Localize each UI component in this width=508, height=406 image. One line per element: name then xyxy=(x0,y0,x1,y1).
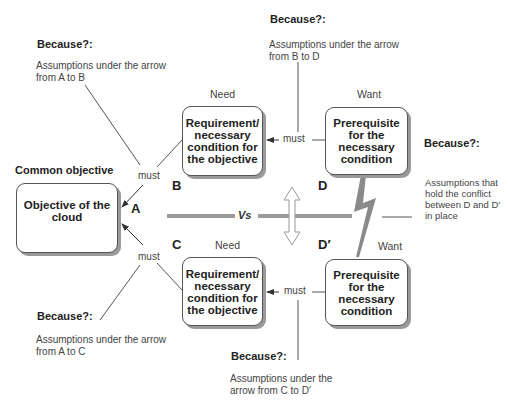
assumption-ac-text: Assumptions under the arrow from A to C xyxy=(36,334,166,358)
letter-d-prime: D′ xyxy=(318,237,331,252)
assumption-dd-line4: in place xyxy=(425,210,500,221)
must-label-ab: must xyxy=(137,170,161,181)
letter-d: D xyxy=(318,178,327,193)
assumption-ab-line1: Assumptions under the arrow xyxy=(36,60,166,72)
assumption-dd-title: Because?: xyxy=(424,137,480,149)
node-d-prime-box[interactable]: Prerequisite for the necessary condition xyxy=(325,259,408,326)
header-want-d-prime: Want xyxy=(378,240,402,252)
must-label-bd: must xyxy=(282,133,306,144)
assumption-dd-line2: hold the conflict xyxy=(425,188,500,199)
assumption-cd-title: Because?: xyxy=(231,350,287,362)
assumption-bd-line2: from B to D xyxy=(269,51,399,63)
node-c-box[interactable]: Requirement/ necessary condition for the… xyxy=(182,257,263,326)
letter-a: A xyxy=(131,201,140,216)
assumption-ac-line2: from A to C xyxy=(36,346,166,358)
vs-label: Vs xyxy=(238,209,251,221)
assumption-ab-line2: from A to B xyxy=(36,72,166,84)
common-objective-label: Common objective xyxy=(15,164,113,176)
header-want-d: Want xyxy=(357,88,381,100)
assumption-ab-title: Because?: xyxy=(37,38,93,50)
assumption-cd-line1: Assumptions under the xyxy=(230,373,332,385)
assumption-dd-text: Assumptions that hold the conflict betwe… xyxy=(425,177,500,221)
header-need-c: Need xyxy=(215,239,240,251)
letter-b: B xyxy=(172,178,181,193)
node-a-box[interactable]: Objective of the cloud xyxy=(16,183,118,253)
assumption-bd-text: Assumptions under the arrow from B to D xyxy=(269,39,399,63)
node-d-prime-text: Prerequisite for the necessary condition xyxy=(330,269,403,317)
node-b-text: Requirement/ necessary condition for the… xyxy=(186,117,260,165)
node-d-box[interactable]: Prerequisite for the necessary condition xyxy=(325,107,408,175)
node-d-text: Prerequisite for the necessary condition xyxy=(330,117,403,165)
node-a-text: Objective of the cloud xyxy=(21,199,113,223)
assumption-ac-title: Because?: xyxy=(37,310,93,322)
node-c-text: Requirement/ necessary condition for the… xyxy=(186,268,260,316)
assumption-dd-line3: between D and D′ xyxy=(425,199,500,210)
header-need-b: Need xyxy=(210,88,235,100)
letter-c: C xyxy=(172,237,181,252)
assumption-bd-title: Because?: xyxy=(270,13,326,25)
assumption-ac-line1: Assumptions under the arrow xyxy=(36,334,166,346)
must-label-ac: must xyxy=(137,251,161,262)
assumption-dd-line1: Assumptions that xyxy=(425,177,500,188)
assumption-ab-text: Assumptions under the arrow from A to B xyxy=(36,60,166,84)
assumption-bd-line1: Assumptions under the arrow xyxy=(269,39,399,51)
must-label-cd: must xyxy=(283,285,307,296)
assumption-cd-text: Assumptions under the arrow from C to D′ xyxy=(230,373,332,397)
assumption-cd-line2: arrow from C to D′ xyxy=(230,385,332,397)
node-b-box[interactable]: Requirement/ necessary condition for the… xyxy=(182,106,263,176)
